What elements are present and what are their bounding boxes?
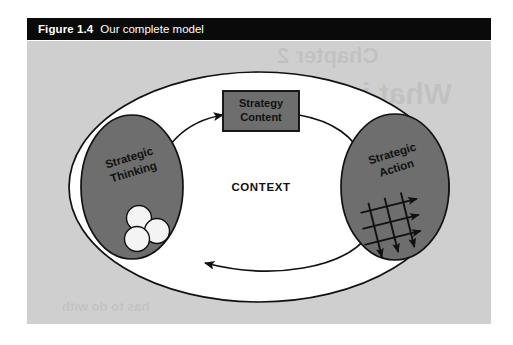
node-strategic-action[interactable]: Strategic Action bbox=[341, 114, 449, 260]
node-strategy-content[interactable]: Strategy Content bbox=[223, 91, 299, 131]
strategy-content-label-line2: Content bbox=[240, 111, 282, 123]
figure-panel: Chapter 2 What is strategy? the Art of w… bbox=[27, 41, 491, 324]
model-diagram: Strategic Thinking Strategy Content bbox=[27, 41, 491, 324]
figure-caption-title: Our complete model bbox=[100, 23, 204, 35]
context-label: CONTEXT bbox=[231, 181, 290, 193]
strategy-content-label-line1: Strategy bbox=[239, 97, 284, 109]
figure-caption-bar: Figure 1.4 Our complete model bbox=[27, 18, 491, 40]
figure-page: Figure 1.4 Our complete model Chapter 2 … bbox=[0, 0, 513, 345]
node-strategic-thinking[interactable]: Strategic Thinking bbox=[81, 115, 183, 259]
figure-caption-label: Figure 1.4 bbox=[38, 23, 93, 35]
